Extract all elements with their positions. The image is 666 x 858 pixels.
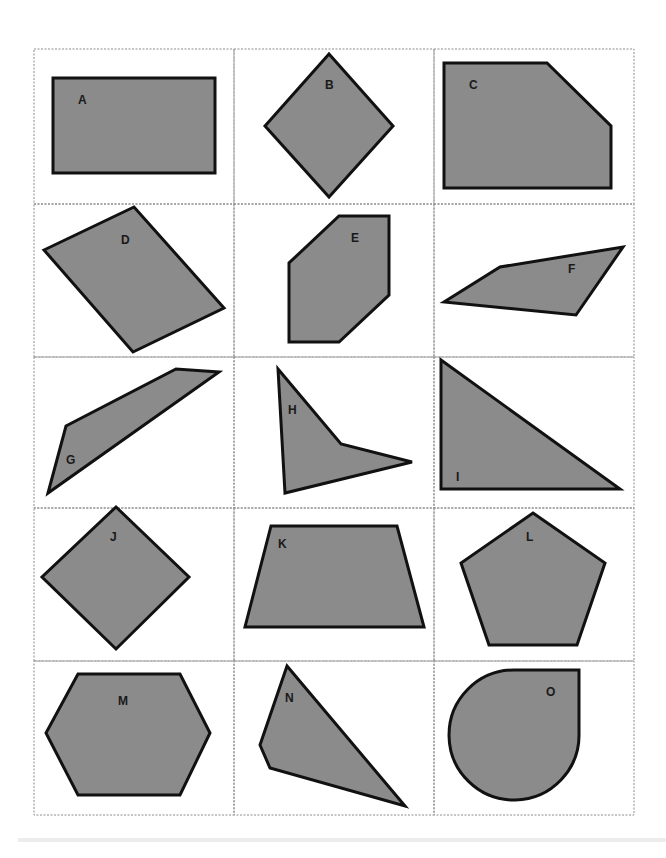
shape-label: G [66, 453, 75, 467]
shape-label: I [456, 470, 459, 484]
shape-card-l: L [461, 513, 605, 645]
shape-label: C [469, 78, 478, 92]
shape-card-c: C [444, 63, 611, 188]
shape-j-square [42, 507, 189, 649]
shape-label: K [278, 537, 287, 551]
shape-label: N [285, 691, 294, 705]
shape-h-concave-quadrilateral [278, 369, 412, 493]
shape-k-trapezoid [245, 526, 424, 627]
shape-f-quadrilateral [444, 247, 623, 315]
shape-card-o: O [449, 670, 579, 800]
shape-label: M [118, 694, 128, 708]
shape-o-teardrop [449, 670, 579, 800]
shape-card-i: I [441, 360, 620, 489]
shape-label: D [121, 233, 130, 247]
shape-card-e: E [289, 216, 389, 342]
shape-label: F [568, 262, 575, 276]
shape-label: A [78, 93, 87, 107]
shape-card-a: A [53, 78, 215, 173]
shape-card-d: D [44, 207, 224, 352]
page-footer-divider [18, 838, 666, 842]
shape-card-g: G [48, 369, 219, 493]
shape-m-hexagon [46, 674, 210, 795]
shape-label: L [526, 530, 533, 544]
shape-label: B [325, 78, 334, 92]
shape-card-f: F [444, 247, 623, 315]
shape-card-h: H [278, 369, 412, 493]
shape-n-quadrilateral [260, 666, 405, 806]
shape-d-parallelogram [44, 207, 224, 352]
shape-card-b: B [265, 54, 393, 197]
shape-label: H [288, 403, 297, 417]
shape-label: J [110, 530, 117, 544]
shape-card-k: K [245, 526, 424, 627]
shape-worksheet: A B C D E F G H I J [0, 0, 666, 858]
shape-i-right-triangle [441, 360, 620, 489]
card-cell [234, 357, 434, 508]
shape-card-j: J [42, 507, 189, 649]
shape-card-m: M [46, 674, 210, 795]
shape-label: E [351, 231, 359, 245]
shape-label: O [546, 685, 555, 699]
shape-g-quadrilateral [48, 369, 219, 493]
shape-b-square [265, 54, 393, 197]
shape-card-n: N [260, 666, 405, 806]
shape-e-hexagon [289, 216, 389, 342]
